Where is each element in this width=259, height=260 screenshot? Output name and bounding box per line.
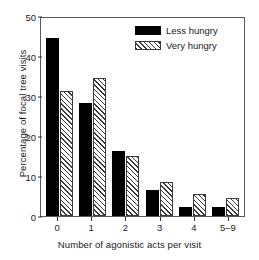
bar-less-hungry xyxy=(46,38,59,216)
x-tick-label: 5–9 xyxy=(211,222,245,233)
x-tick-label: 2 xyxy=(108,222,142,233)
legend-swatch-solid-icon xyxy=(135,26,161,35)
y-tick-mark xyxy=(38,137,42,138)
chart-legend: Less hungry Very hungry xyxy=(135,25,218,51)
legend-label-less-hungry: Less hungry xyxy=(166,25,218,36)
bar-very-hungry xyxy=(226,198,239,216)
bar-less-hungry xyxy=(179,207,192,216)
x-tick-mark xyxy=(91,217,92,221)
x-tick-label: 0 xyxy=(40,222,74,233)
x-axis-tick-labels: 012345–9 xyxy=(40,222,245,233)
legend-item-less-hungry: Less hungry xyxy=(135,25,218,36)
x-tick-label: 1 xyxy=(74,222,108,233)
bar-very-hungry xyxy=(93,78,106,216)
x-tick-mark xyxy=(57,217,58,221)
y-axis-tick-labels: 01020304050 xyxy=(14,17,36,217)
y-tick-label: 50 xyxy=(14,12,36,23)
bar-less-hungry xyxy=(212,207,225,216)
bar-very-hungry xyxy=(160,182,173,216)
x-tick-mark xyxy=(160,217,161,221)
bar-very-hungry xyxy=(126,156,139,216)
y-tick-mark xyxy=(38,177,42,178)
bar-group xyxy=(43,18,76,216)
bar-group xyxy=(76,18,109,216)
y-tick-mark xyxy=(38,217,42,218)
x-axis-title: Number of agonistic acts per visit xyxy=(0,239,259,250)
bar-very-hungry xyxy=(193,194,206,216)
x-tick-mark xyxy=(194,217,195,221)
x-tick-label: 4 xyxy=(177,222,211,233)
y-tick-label: 10 xyxy=(14,172,36,183)
y-tick-label: 20 xyxy=(14,132,36,143)
y-tick-label: 30 xyxy=(14,92,36,103)
bar-less-hungry xyxy=(146,190,159,216)
legend-item-very-hungry: Very hungry xyxy=(135,40,218,51)
legend-label-very-hungry: Very hungry xyxy=(166,40,217,51)
bar-very-hungry xyxy=(60,91,73,216)
y-tick-mark xyxy=(38,97,42,98)
y-tick-label: 0 xyxy=(14,212,36,223)
x-tick-label: 3 xyxy=(143,222,177,233)
legend-swatch-hatch-icon xyxy=(135,41,161,50)
x-tick-mark xyxy=(228,217,229,221)
bar-less-hungry xyxy=(79,103,92,216)
x-tick-mark xyxy=(125,217,126,221)
bar-chart-figure: Percentage of focal tree visits 01020304… xyxy=(0,0,259,260)
y-tick-label: 40 xyxy=(14,52,36,63)
y-tick-mark xyxy=(38,17,42,18)
bar-less-hungry xyxy=(112,151,125,216)
y-tick-mark xyxy=(38,57,42,58)
